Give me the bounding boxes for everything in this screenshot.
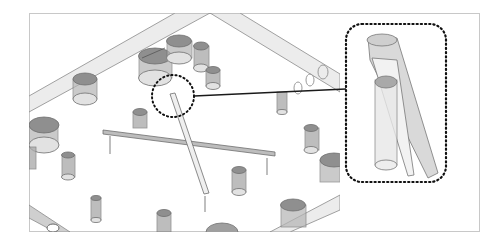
diagram-figure [0,0,503,246]
